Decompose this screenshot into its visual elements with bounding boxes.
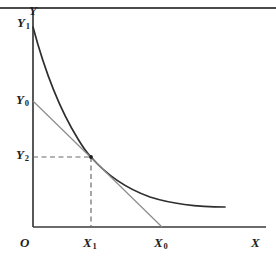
- y1-value-label: Y1: [17, 16, 30, 29]
- y0-value-label: Y0: [16, 93, 29, 106]
- x1-value-label: X1: [83, 236, 96, 249]
- y0-subscript: 0: [25, 98, 29, 108]
- plot-canvas: [0, 0, 276, 261]
- diagram-figure: Y Y1 Y0 Y2 O X1 X0 X: [0, 0, 276, 261]
- y-axis-label: Y: [29, 4, 37, 17]
- x1-subscript: 1: [92, 241, 96, 251]
- x0-value-label: X0: [154, 236, 167, 249]
- y2-subscript: 2: [25, 153, 29, 163]
- y2-value-label: Y2: [16, 148, 29, 161]
- convex-curve: [33, 27, 225, 207]
- tangency-point-marker: [89, 155, 93, 159]
- tangent-line: [33, 101, 162, 227]
- y1-subscript: 1: [26, 21, 30, 31]
- origin-label: O: [20, 236, 30, 249]
- x0-subscript: 0: [163, 241, 167, 251]
- x-axis-label: X: [251, 236, 260, 249]
